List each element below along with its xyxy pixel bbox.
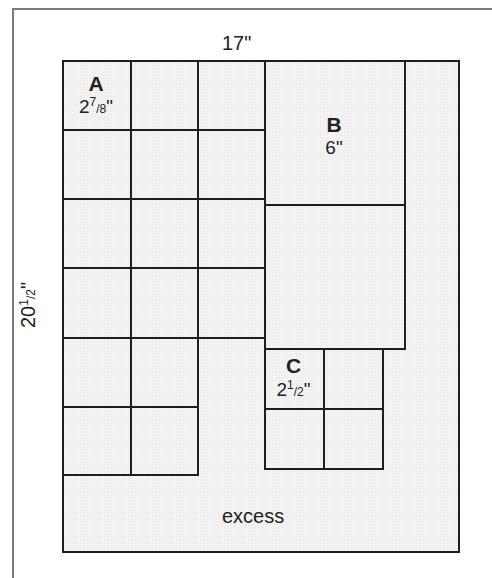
piece-b-cell — [264, 204, 406, 350]
piece-a-size: 27/8" — [62, 96, 130, 116]
piece-a-cell — [62, 337, 132, 408]
piece-a-whole: 2 — [79, 96, 90, 117]
piece-c-cell — [323, 348, 384, 410]
piece-c-den: 2 — [297, 385, 304, 399]
piece-a-cell — [197, 198, 266, 269]
piece-a-cell — [62, 198, 132, 269]
piece-a-cell — [130, 406, 199, 476]
piece-a-letter: A — [62, 73, 130, 94]
piece-a-cell — [130, 337, 199, 408]
piece-a-cell — [130, 198, 199, 269]
piece-a-cell — [197, 267, 266, 339]
piece-c-whole: 2 — [276, 379, 287, 400]
excess-label: excess — [222, 505, 284, 528]
height-den: 2 — [24, 289, 38, 296]
piece-a-unit: " — [106, 96, 113, 117]
height-unit: " — [17, 282, 39, 289]
piece-b-letter: B — [264, 114, 404, 135]
width-dimension-label: 17" — [222, 32, 251, 55]
piece-c-cell — [264, 408, 325, 470]
piece-a-cell — [130, 129, 199, 200]
piece-a-cell — [62, 267, 132, 339]
piece-a-cell — [130, 267, 199, 339]
piece-c-size: 21/2" — [264, 379, 323, 399]
piece-c-unit: " — [304, 379, 311, 400]
piece-a-cell — [62, 406, 132, 476]
height-whole: 20 — [17, 306, 39, 328]
piece-c-letter: C — [264, 355, 323, 376]
height-num: 1 — [17, 299, 31, 306]
height-dimension-label: 201/2" — [17, 282, 40, 328]
piece-a-cell — [62, 129, 132, 200]
piece-a-cell — [197, 129, 266, 200]
piece-a-cell — [197, 60, 266, 131]
piece-a-cell — [130, 60, 199, 131]
piece-c-num: 1 — [287, 378, 294, 392]
piece-b-size: 6" — [264, 138, 404, 157]
piece-c-cell — [323, 408, 384, 470]
